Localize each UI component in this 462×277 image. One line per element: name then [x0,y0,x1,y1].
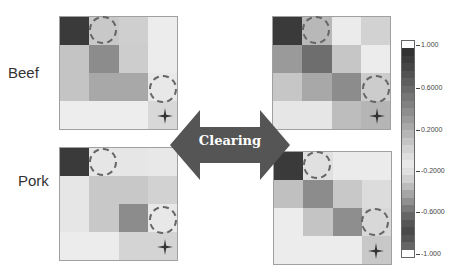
colorbar-tick: 1.000 [416,41,439,48]
matrix-cell [361,17,390,45]
matrix-cell [332,45,361,73]
matrix-cell [332,73,361,101]
matrix-cell [119,232,148,260]
matrix-cell [333,180,362,208]
matrix-cell [273,45,302,73]
dashed-circle-icon [89,16,117,44]
colorbar [401,40,415,258]
matrix-cell [89,204,118,232]
matrix-cell [333,208,362,236]
colorbar-tick: -1.000 [416,250,441,257]
matrix-cell [332,17,361,45]
matrix-cell [302,73,331,101]
matrix-cell [60,45,89,73]
matrix-cell [148,176,177,204]
matrix-cell [60,17,89,45]
dashed-circle-icon [362,75,390,103]
colorbar-tick: 0.6000 [416,84,442,91]
matrix-cell [119,101,148,129]
matrix-cell [60,73,89,101]
dashed-circle-icon [89,148,117,176]
colorbar-tick: -0.6000 [416,208,445,215]
matrix-cell [60,204,89,232]
clearing-label: Clearing [170,133,290,148]
pork-label: Pork [18,172,49,189]
matrix-cell [303,180,332,208]
matrix-cell [273,73,302,101]
matrix-cell [362,180,391,208]
matrix-cell [274,236,303,264]
matrix-cell [302,45,331,73]
matrix-cell [303,236,332,264]
matrix-cell [362,152,391,180]
matrix-cell [60,176,89,204]
matrix-cell [89,101,118,129]
matrix-cell [274,208,303,236]
matrix-cell [332,101,361,129]
star-marker-icon [368,243,384,259]
matrix-cell [273,17,302,45]
matrix-cell [119,17,148,45]
matrix-cell [148,45,177,73]
star-marker-icon [369,108,385,124]
colorbar-tick: -0.2000 [416,167,445,174]
matrix-cell [119,73,148,101]
matrix-cell [60,101,89,129]
matrix-cell [333,236,362,264]
matrix-cell [89,232,118,260]
matrix-cell [60,148,89,176]
matrix-cell [361,45,390,73]
matrix-cell [119,176,148,204]
matrix-cell [333,152,362,180]
dashed-circle-icon [302,16,330,44]
dashed-circle-icon [361,208,389,236]
matrix-cell [89,45,118,73]
matrix-cell [148,17,177,45]
beef-label: Beef [8,64,39,81]
matrix-cell [274,180,303,208]
dashed-circle-icon [149,75,177,103]
matrix-cell [60,232,89,260]
matrix-cell [303,208,332,236]
matrix-cell [302,101,331,129]
colorbar-tick: 0.2000 [416,126,442,133]
dashed-circle-icon [149,206,177,234]
star-marker-icon [157,239,173,255]
matrix-cell [119,204,148,232]
dashed-circle-icon [303,151,331,179]
matrix-cell [119,148,148,176]
matrix-cell [89,73,118,101]
matrix-cell [119,45,148,73]
matrix-cell [89,176,118,204]
